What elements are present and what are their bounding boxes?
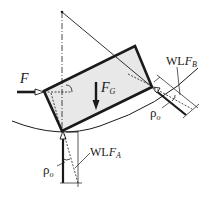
support-b-top-tick — [154, 77, 160, 82]
label-rho-left: ρo — [43, 161, 54, 179]
diagram-canvas: F FG ρo ρo WLFA WLFB — [0, 0, 215, 200]
wlf-b-sub: B — [192, 60, 197, 69]
force-f-arrowhead — [35, 89, 44, 95]
wlf-a-leader — [75, 153, 90, 168]
block-body — [44, 46, 152, 131]
label-force-f: F — [20, 72, 29, 86]
label-wlf-a: WLFA — [90, 146, 121, 160]
diagram-svg — [0, 0, 215, 200]
wlf-a-main: WL — [90, 145, 109, 159]
label-wlf-b: WLFB — [166, 55, 197, 69]
label-rho-right: ρo — [150, 104, 161, 122]
label-weight-sub: G — [110, 87, 116, 96]
support-b-end-line — [183, 104, 199, 118]
rho-a-angle-arc — [63, 159, 70, 160]
label-weight-fg: FG — [101, 79, 115, 96]
wlf-b-main: WL — [166, 54, 185, 68]
wlf-a-ital: F — [109, 145, 116, 159]
rho-b-leader — [162, 102, 170, 108]
rho-right-sub: o — [157, 113, 161, 122]
wlf-a-dashed-line — [64, 134, 78, 183]
wlf-b-ital: F — [185, 54, 192, 68]
wlf-b-leader — [177, 67, 180, 95]
rho-left-sub: o — [50, 170, 54, 179]
wlf-a-sub: A — [116, 151, 121, 160]
label-weight-main: F — [101, 80, 110, 95]
support-b-ref-line — [157, 75, 198, 108]
